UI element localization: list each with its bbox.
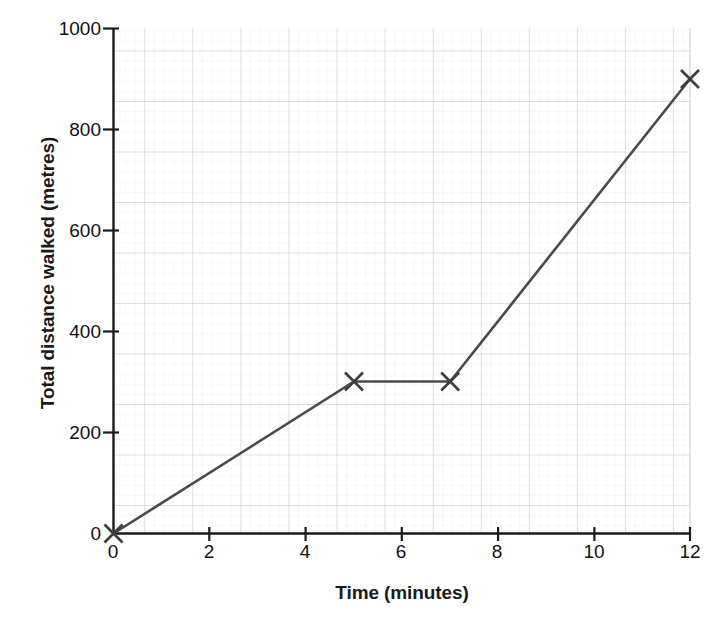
plot-area bbox=[0, 0, 706, 624]
distance-time-chart: Total distance walked (metres) 1000 800 … bbox=[0, 0, 706, 624]
grid bbox=[113, 28, 690, 533]
